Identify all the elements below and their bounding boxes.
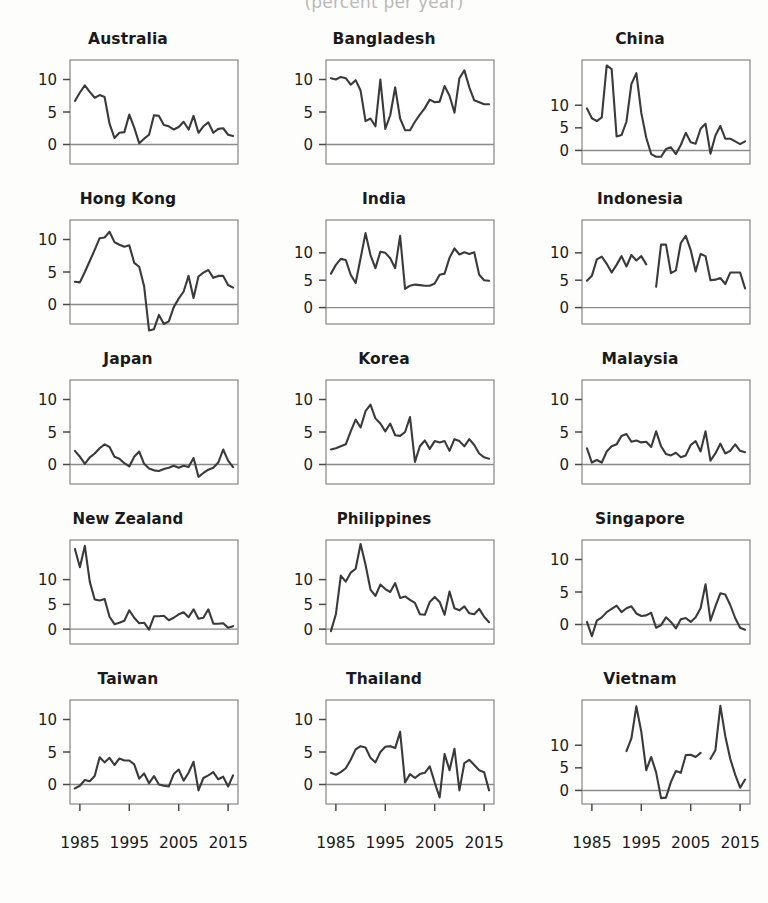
y-tick-label: 5 — [47, 104, 57, 122]
panel-title: Vietnam — [512, 670, 768, 688]
panel-china: China0510 — [512, 26, 768, 186]
panel-philippines: Philippines0510 — [256, 506, 512, 666]
x-tick-label: 2005 — [159, 834, 198, 852]
plot-frame — [582, 220, 750, 324]
panel-title: Japan — [0, 350, 256, 368]
y-tick-label: 10 — [38, 391, 57, 409]
panel-plot: 0510 — [256, 528, 512, 666]
panel-thailand: Thailand0510 — [256, 666, 512, 826]
y-tick-label: 5 — [559, 272, 569, 290]
y-tick-label: 10 — [294, 391, 313, 409]
panel-plot: 0510 — [512, 688, 768, 826]
panel-title: China — [512, 30, 768, 48]
y-tick-label: 10 — [294, 71, 313, 89]
y-tick-label: 10 — [550, 551, 569, 569]
y-tick-label: 5 — [559, 584, 569, 602]
panel-plot: 0510 — [512, 208, 768, 346]
panel-title: India — [256, 190, 512, 208]
plot-frame — [70, 60, 238, 164]
y-tick-label: 5 — [303, 744, 313, 762]
y-tick-label: 5 — [47, 744, 57, 762]
y-tick-label: 5 — [47, 264, 57, 282]
x-tick-label: 1995 — [366, 834, 405, 852]
plot-frame — [326, 540, 494, 644]
y-tick-label: 10 — [38, 711, 57, 729]
panel-plot: 0510 — [256, 48, 512, 186]
y-tick-label: 0 — [559, 299, 569, 317]
y-tick-label: 0 — [47, 456, 57, 474]
x-tick-label: 2015 — [208, 834, 247, 852]
x-tick-label: 2015 — [720, 834, 759, 852]
plot-frame — [326, 220, 494, 324]
panel-plot: 0510 — [256, 208, 512, 346]
panel-title: New Zealand — [0, 510, 256, 528]
plot-frame — [70, 220, 238, 324]
x-tick-label: 1995 — [622, 834, 661, 852]
panel-plot: 0510 — [512, 368, 768, 506]
x-tick-label: 1985 — [316, 834, 355, 852]
y-tick-label: 0 — [47, 621, 57, 639]
y-tick-label: 0 — [559, 616, 569, 634]
y-tick-label: 10 — [38, 71, 57, 89]
panel-plot: 0510 — [0, 688, 256, 826]
y-tick-label: 0 — [47, 296, 57, 314]
panel-title: Indonesia — [512, 190, 768, 208]
x-tick-label: 1985 — [572, 834, 611, 852]
panel-title: Singapore — [512, 510, 768, 528]
x-tick-label: 2005 — [415, 834, 454, 852]
panel-title: Thailand — [256, 670, 512, 688]
y-tick-label: 10 — [550, 244, 569, 262]
panel-plot: 0510 — [0, 528, 256, 666]
panel-taiwan: Taiwan0510 — [0, 666, 256, 826]
y-tick-label: 10 — [38, 231, 57, 249]
y-tick-label: 5 — [303, 104, 313, 122]
y-tick-label: 10 — [38, 571, 57, 589]
panel-bangladesh: Bangladesh0510 — [256, 26, 512, 186]
plot-frame — [582, 380, 750, 484]
panel-title: Malaysia — [512, 350, 768, 368]
figure-title: (percent per year) — [0, 0, 768, 12]
y-tick-label: 0 — [559, 456, 569, 474]
y-tick-label: 10 — [294, 711, 313, 729]
plot-frame — [326, 700, 494, 804]
y-tick-label: 0 — [303, 621, 313, 639]
panel-plot: 0510 — [256, 688, 512, 826]
y-tick-label: 5 — [303, 424, 313, 442]
y-tick-label: 10 — [550, 737, 569, 755]
panel-plot: 0510 — [0, 208, 256, 346]
panel-title: Philippines — [256, 510, 512, 528]
plot-frame — [70, 540, 238, 644]
y-tick-label: 10 — [550, 97, 569, 115]
plot-frame — [326, 60, 494, 164]
y-tick-label: 10 — [294, 571, 313, 589]
panel-plot: 0510 — [0, 48, 256, 186]
panel-plot: 0510 — [256, 368, 512, 506]
y-tick-label: 10 — [294, 244, 313, 262]
plot-frame — [582, 700, 750, 804]
panel-vietnam: Vietnam0510 — [512, 666, 768, 826]
panel-title: Korea — [256, 350, 512, 368]
panel-title: Hong Kong — [0, 190, 256, 208]
panel-plot: 0510 — [512, 528, 768, 666]
y-tick-label: 0 — [559, 142, 569, 160]
panel-japan: Japan0510 — [0, 346, 256, 506]
panel-title: Australia — [0, 30, 256, 48]
y-tick-label: 0 — [559, 782, 569, 800]
y-tick-label: 10 — [550, 391, 569, 409]
multi-panel-chart: (percent per year) Australia0510Banglade… — [0, 0, 768, 903]
panel-title: Bangladesh — [256, 30, 512, 48]
panel-plot: 0510 — [512, 48, 768, 186]
y-tick-label: 0 — [303, 136, 313, 154]
y-tick-label: 0 — [303, 456, 313, 474]
panel-singapore: Singapore0510 — [512, 506, 768, 666]
panel-title: Taiwan — [0, 670, 256, 688]
panel-indonesia: Indonesia0510 — [512, 186, 768, 346]
x-axis-labels: 1985199520052015198519952005201519851995… — [0, 826, 768, 886]
panel-malaysia: Malaysia0510 — [512, 346, 768, 506]
x-tick-label: 2005 — [671, 834, 710, 852]
y-tick-label: 0 — [47, 776, 57, 794]
y-tick-label: 5 — [303, 596, 313, 614]
y-tick-label: 5 — [559, 424, 569, 442]
panel-plot: 0510 — [0, 368, 256, 506]
x-tick-label: 1985 — [60, 834, 99, 852]
